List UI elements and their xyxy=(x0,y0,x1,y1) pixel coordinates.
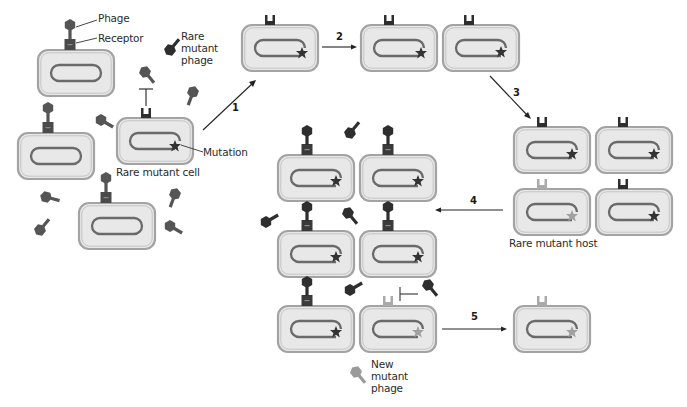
step-number-2: 2 xyxy=(336,31,343,42)
step-number-1: 1 xyxy=(232,102,239,113)
arrow-step-3 xyxy=(490,76,531,119)
step-number-4: 4 xyxy=(470,195,477,206)
step-number-5: 5 xyxy=(471,311,478,322)
new-mutant-phage-icon xyxy=(348,364,369,386)
arrow-step-4 xyxy=(435,208,503,213)
label-phage: Phage xyxy=(98,12,130,24)
rare-mutant-host-group xyxy=(514,117,672,235)
arrow-step-2 xyxy=(322,45,357,50)
label-rare-mutant-phage: Rare mutant phage xyxy=(181,30,241,66)
bottom-row xyxy=(278,276,590,386)
label-receptor: Receptor xyxy=(98,32,143,44)
coevolution-diagram xyxy=(0,0,687,407)
label-mutation: Mutation xyxy=(203,146,248,158)
infected-mutant-cells xyxy=(258,119,436,277)
label-rare-mutant-cell: Rare mutant cell xyxy=(116,166,200,178)
label-rare-mutant-host: Rare mutant host xyxy=(509,237,597,249)
label-new-mutant-phage: New mutant phage xyxy=(371,358,431,394)
arrow-step-5 xyxy=(442,327,507,332)
wild-type-population xyxy=(18,19,203,249)
mutant-clone-row xyxy=(242,15,519,71)
arrow-step-1 xyxy=(203,80,256,130)
step-number-3: 3 xyxy=(513,87,520,98)
